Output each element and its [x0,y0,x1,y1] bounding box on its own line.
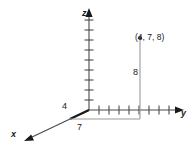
x-axis-label: x [11,130,16,139]
x-coordinate-segment [70,110,89,119]
axes-drawing [0,0,193,148]
y-axis [89,106,184,115]
point-coordinate-label: (4, 7, 8) [135,33,164,42]
depth-label-4: 4 [62,102,67,111]
coordinate-diagram: z y x (4, 7, 8) 8 7 4 [0,0,193,148]
height-label-8: 8 [133,68,138,77]
y-axis-label: y [181,109,186,118]
z-axis-label: z [82,9,87,18]
z-axis [85,8,94,110]
depth-label-7: 7 [77,123,82,132]
x-axis-arrowhead [24,135,34,142]
